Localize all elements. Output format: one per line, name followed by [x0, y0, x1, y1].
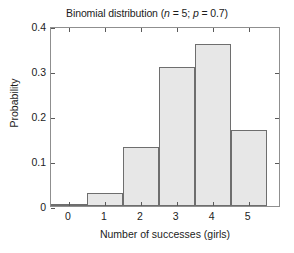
- y-tick-mark-right: [275, 73, 279, 74]
- x-tick-label: 4: [197, 211, 227, 222]
- x-axis-label: Number of successes (girls): [50, 228, 280, 240]
- y-tick-mark: [51, 118, 55, 119]
- y-tick-mark-right: [275, 163, 279, 164]
- x-tick-mark: [141, 202, 142, 206]
- x-tick-label: 5: [233, 211, 263, 222]
- title-lead-text: Binomial distribution (: [66, 7, 164, 19]
- x-tick-mark-top: [69, 28, 70, 32]
- x-tick-mark-top: [141, 28, 142, 32]
- x-tick-mark: [69, 202, 70, 206]
- bar-category-3: [159, 67, 195, 206]
- y-tick-label-group: 00.10.20.30.4: [0, 27, 46, 207]
- y-tick-label: 0.4: [4, 22, 46, 33]
- bars-layer: [51, 28, 279, 206]
- y-tick-mark-right: [275, 118, 279, 119]
- chart-title: Binomial distribution (n = 5; p = 0.7): [0, 7, 294, 19]
- y-tick-mark: [51, 163, 55, 164]
- bar-category-5: [231, 130, 267, 206]
- y-tick-mark: [51, 28, 55, 29]
- x-tick-label: 2: [125, 211, 155, 222]
- bar-category-4: [195, 44, 231, 206]
- y-tick-label: 0.1: [4, 157, 46, 168]
- plot-area: [50, 27, 280, 207]
- x-tick-mark: [213, 202, 214, 206]
- x-tick-label-group: 012345: [50, 211, 280, 225]
- y-tick-mark: [51, 208, 55, 209]
- y-tick-mark: [51, 73, 55, 74]
- y-tick-label: 0: [4, 202, 46, 213]
- y-tick-label: 0.2: [4, 112, 46, 123]
- x-tick-label: 1: [89, 211, 119, 222]
- x-tick-mark-top: [177, 28, 178, 32]
- title-p-value: = 0.7): [199, 7, 228, 19]
- x-tick-mark-top: [105, 28, 106, 32]
- x-tick-mark: [177, 202, 178, 206]
- x-tick-mark-top: [249, 28, 250, 32]
- title-n-value: = 5;: [170, 7, 193, 19]
- binomial-distribution-chart: Binomial distribution (n = 5; p = 0.7) P…: [0, 0, 294, 253]
- x-tick-mark-top: [213, 28, 214, 32]
- x-tick-mark: [105, 202, 106, 206]
- x-tick-label: 3: [161, 211, 191, 222]
- bar-category-2: [123, 147, 159, 206]
- y-tick-label: 0.3: [4, 67, 46, 78]
- x-tick-mark: [249, 202, 250, 206]
- x-tick-label: 0: [53, 211, 83, 222]
